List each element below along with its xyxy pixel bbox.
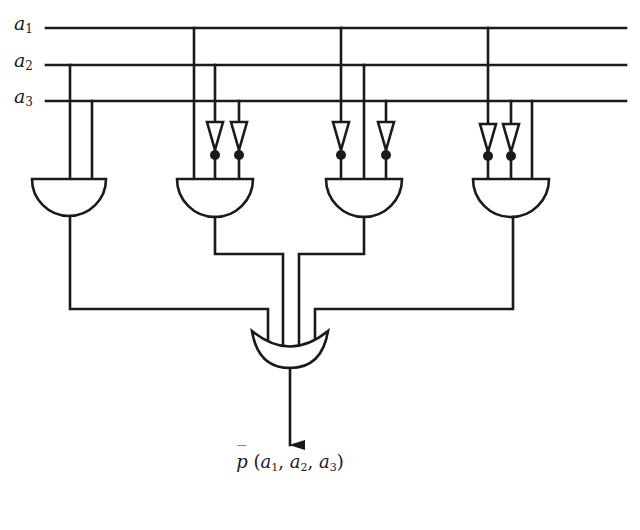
output-open-paren: ( — [254, 451, 261, 472]
output-arg3-sub: 3 — [330, 461, 337, 474]
inverter-g4-a1 — [480, 124, 496, 152]
and-gate-3 — [326, 179, 402, 217]
and-gate-1-group — [32, 65, 106, 216]
inverter-g3-a3 — [378, 122, 394, 150]
output-bar-icon: ‾ — [237, 442, 246, 463]
wire-and4-to-or — [315, 217, 513, 342]
output-arg1-name: a — [261, 451, 272, 472]
or-gate — [252, 331, 328, 368]
logic-circuit-diagram: a1 a2 a3 — [0, 0, 640, 530]
output-label: p‾ (a1, a2, a3) — [0, 451, 580, 474]
output-arg2-sub: 2 — [301, 461, 308, 474]
output-func: p‾ — [236, 451, 253, 472]
and-gate-1 — [32, 179, 106, 216]
output-close-paren: ) — [337, 451, 344, 472]
output-sep: , — [308, 451, 319, 472]
wire-and2-to-or — [215, 217, 283, 345]
output-arg2-name: a — [290, 451, 301, 472]
inverter-g2-a2 — [207, 122, 223, 150]
wire-and3-to-or — [299, 217, 364, 345]
inverter-g2-a3 — [231, 122, 247, 150]
and-gate-2-group — [177, 28, 253, 217]
wire-and1-to-or — [70, 216, 268, 342]
and-gate-4 — [473, 179, 549, 217]
and-gate-4-group — [473, 28, 549, 217]
inverter-g4-a3 — [503, 124, 519, 152]
inverter-g3-a1 — [333, 122, 349, 150]
output-sep: , — [278, 451, 289, 472]
output-arg3-name: a — [319, 451, 330, 472]
and-gate-3-group — [326, 28, 402, 217]
and-gate-2 — [177, 179, 253, 217]
